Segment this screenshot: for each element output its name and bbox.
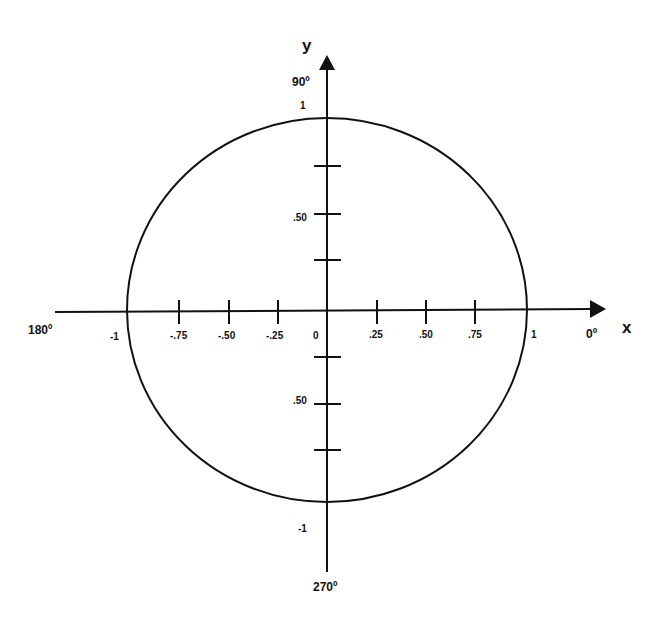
y-tick-label: .50 (293, 395, 307, 406)
x-tick-label: 0 (313, 330, 319, 341)
y-tick-label: 1 (300, 100, 306, 111)
unit-circle-diagram: y x 90º 0º 180º 270º -1 -.75 -.50 -.25 0… (0, 0, 667, 622)
x-tick-label: .25 (369, 329, 383, 340)
x-tick-label: -1 (110, 331, 119, 342)
x-tick-label: 1 (531, 329, 537, 340)
angle-label-0: 0º (586, 327, 598, 341)
x-tick-label: .50 (419, 329, 433, 340)
angle-label-270: 270º (313, 580, 338, 594)
x-tick-label: -.50 (218, 330, 236, 341)
y-tick-label: -1 (298, 523, 307, 534)
y-tick-label: .50 (293, 212, 307, 223)
y-axis-arrow-icon (319, 55, 335, 70)
x-tick-label: .75 (468, 329, 482, 340)
x-tick-label: -.25 (266, 330, 284, 341)
x-axis-label: x (622, 318, 632, 337)
x-axis-arrow-icon (590, 300, 606, 318)
angle-label-180: 180º (28, 323, 53, 337)
x-tick-label: -.75 (170, 330, 188, 341)
x-axis (55, 309, 592, 312)
y-axis-label: y (302, 36, 312, 55)
angle-label-90: 90º (292, 75, 310, 89)
